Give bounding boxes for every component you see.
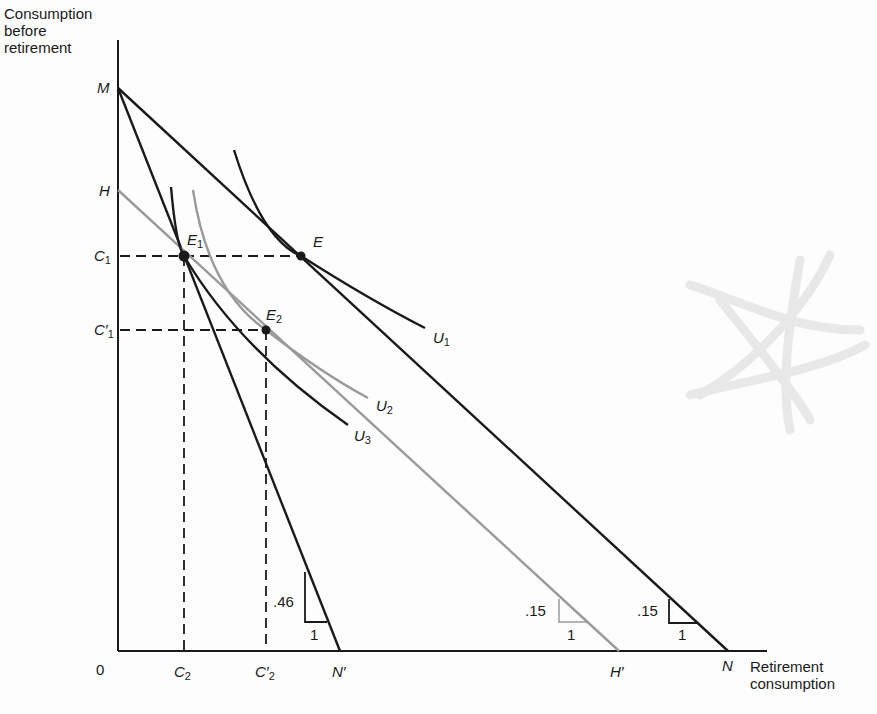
- y-axis-title-line: Consumption: [4, 5, 92, 22]
- label-C1-sub: 1: [105, 254, 111, 266]
- label-C2p-letter: C: [255, 663, 266, 680]
- equilibrium-point-E: [297, 252, 306, 261]
- label-C1p-sub: 1: [108, 328, 114, 340]
- label-C1: C1: [94, 248, 111, 268]
- label-C1-prime: C′1: [94, 322, 114, 342]
- label-H: H: [99, 183, 110, 199]
- slope-label-MN: .15: [637, 603, 658, 619]
- label-C2-letter: C: [174, 663, 185, 680]
- x-axis-title: Retirement consumption: [750, 658, 835, 692]
- label-U1-sub: 1: [444, 336, 450, 348]
- label-C2-prime: C′2: [255, 664, 275, 684]
- label-C2-sub: 2: [185, 670, 191, 682]
- label-E2-letter: E: [266, 306, 276, 323]
- label-E: E: [313, 234, 323, 250]
- x-axis-title-line: consumption: [750, 675, 835, 692]
- label-U2-sub: 2: [387, 404, 393, 416]
- run-label-MN: 1: [678, 627, 686, 643]
- label-C1p-letter: C: [94, 321, 105, 338]
- label-N-prime: N′: [332, 664, 346, 680]
- slope-triangle-MNprime: [305, 572, 327, 622]
- label-E2: E2: [266, 307, 282, 327]
- budget-line-MN: [118, 88, 728, 651]
- label-E1-letter: E: [187, 231, 197, 248]
- label-N: N: [722, 658, 733, 674]
- label-C2: C2: [174, 664, 191, 684]
- label-U1: U1: [433, 330, 450, 350]
- diagram-canvas: [0, 0, 877, 714]
- indifference-curve-U3: [171, 187, 348, 425]
- label-M: M: [97, 80, 110, 96]
- label-U3-sub: 3: [365, 434, 371, 446]
- budget-line-MNprime: [118, 88, 340, 651]
- equilibrium-point-E1: [179, 251, 190, 262]
- label-U2: U2: [376, 398, 393, 418]
- slope-label-HHprime: .15: [525, 603, 546, 619]
- label-E1-sub: 1: [197, 238, 203, 250]
- label-U2-letter: U: [376, 397, 387, 414]
- label-U1-letter: U: [433, 329, 444, 346]
- label-U3: U3: [354, 428, 371, 448]
- y-axis-title: Consumption before retirement: [4, 5, 92, 56]
- slope-label-MNprime: .46: [273, 594, 294, 610]
- label-C2p-sub: 2: [269, 670, 275, 682]
- label-E1: E1: [187, 232, 203, 252]
- smudge-mark: [690, 255, 865, 430]
- label-H-prime: H′: [610, 664, 624, 680]
- run-label-HHprime: 1: [567, 627, 575, 643]
- label-E2-sub: 2: [276, 313, 282, 325]
- label-U3-letter: U: [354, 427, 365, 444]
- label-C1-letter: C: [94, 247, 105, 264]
- x-axis-title-line: Retirement: [750, 658, 835, 675]
- budget-line-HHprime: [118, 190, 619, 651]
- origin-label: 0: [96, 662, 104, 678]
- run-label-MNprime: 1: [310, 627, 318, 643]
- y-axis-title-line: retirement: [4, 39, 92, 56]
- y-axis-title-line: before: [4, 22, 92, 39]
- indifference-curve-U1: [234, 150, 425, 328]
